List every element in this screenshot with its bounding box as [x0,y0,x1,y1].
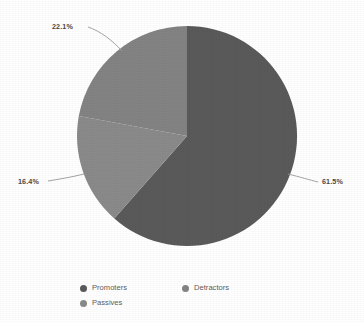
legend-swatch-promoters-icon [80,285,87,292]
slice-label-detractors: 22.1% [52,23,73,30]
legend-swatch-passives-icon [80,300,87,307]
leader-line-passives [48,174,84,181]
pie-chart-figure: 22.1% 16.4% 61.5% Promoters Detractors P… [0,0,364,322]
chart-legend: Promoters Detractors Passives [0,276,364,322]
leader-line-detractors [88,27,122,51]
slice-label-promoters: 61.5% [322,178,343,185]
legend-item-promoters[interactable]: Promoters [80,281,127,295]
slice-label-passives: 16.4% [18,178,39,185]
legend-item-passives[interactable]: Passives [80,296,122,310]
legend-label-promoters: Promoters [92,284,127,292]
pie-svg [0,0,364,272]
legend-label-passives: Passives [92,299,122,307]
legend-label-detractors: Detractors [194,284,229,292]
legend-row-1: Promoters Detractors [80,281,229,295]
leader-line-promoters [288,174,318,182]
pie-plot-area: 22.1% 16.4% 61.5% [0,0,364,272]
legend-swatch-detractors-icon [182,285,189,292]
legend-row-2: Passives [80,296,122,310]
legend-item-detractors[interactable]: Detractors [182,281,229,295]
